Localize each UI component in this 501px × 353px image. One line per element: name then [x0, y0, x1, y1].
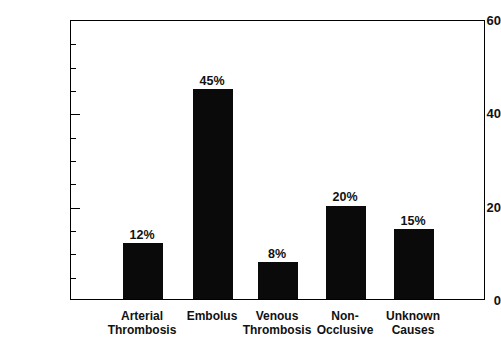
- bar-chart: PERCENT 0 20 40 60 12% 45% 8% 20% 15% Ar…: [0, 0, 501, 353]
- bar-value-arterial-thrombosis: 12%: [129, 228, 154, 242]
- bar-value-unknown-causes: 15%: [400, 214, 425, 228]
- y-tick-minor-50: [71, 68, 76, 69]
- bar-non-occlusive: [326, 206, 366, 299]
- bar-embolus: [193, 89, 233, 299]
- y-tick-minor-25: [71, 184, 76, 185]
- bar-unknown-causes: [394, 229, 434, 299]
- x-label-unknown-causes: Unknown Causes: [386, 309, 440, 337]
- y-tick-minor-35: [71, 138, 76, 139]
- y-tick-minor-45: [71, 91, 76, 92]
- bar-arterial-thrombosis: [123, 243, 163, 299]
- bar-value-embolus: 45%: [199, 74, 224, 88]
- bar-venous-thrombosis: [258, 262, 298, 299]
- y-tick-minor-15: [71, 231, 76, 232]
- y-tick-minor-5: [71, 278, 76, 279]
- y-tick-minor-55: [71, 44, 76, 45]
- bar-value-non-occlusive: 20%: [332, 190, 357, 204]
- x-label-non-occlusive: Non- Occlusive: [317, 309, 374, 337]
- y-tick-minor-30: [71, 161, 76, 162]
- y-tick-major-20: [71, 208, 80, 209]
- y-tick-minor-10: [71, 254, 76, 255]
- bar-value-venous-thrombosis: 8%: [268, 247, 286, 261]
- x-label-venous-thrombosis: Venous Thrombosis: [243, 309, 312, 337]
- x-label-embolus: Embolus: [187, 309, 238, 323]
- x-label-arterial-thrombosis: Arterial Thrombosis: [108, 309, 177, 337]
- y-tick-major-40: [71, 114, 80, 115]
